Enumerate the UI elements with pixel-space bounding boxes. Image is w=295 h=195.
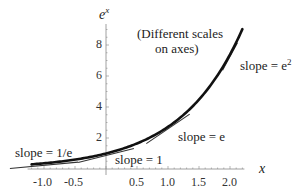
x-axis-label: x (259, 162, 265, 176)
y-tick-label: 6 (96, 69, 102, 81)
x-tick-label: -1.0 (33, 176, 52, 188)
x-tick-label: 2.0 (222, 176, 237, 188)
y-tick-label: 2 (96, 131, 102, 143)
slope-label-e-squared: slope = e2 (240, 58, 292, 72)
y-tick-label: 8 (96, 38, 102, 50)
x-tick-label: 1.5 (191, 176, 206, 188)
slope-label-one-over-e: slope = 1/e (15, 146, 72, 159)
slope-e2-exponent: 2 (287, 57, 292, 67)
x-tick-label: -0.5 (64, 176, 83, 188)
y-axis-label-exponent: x (105, 5, 109, 15)
y-axis-label: ex (99, 6, 109, 22)
annotation-line-1: (Different scales (137, 27, 223, 40)
slope-e2-base: slope = e (240, 58, 287, 73)
annotation-line-2: on axes) (155, 42, 199, 55)
x-tick-label: 0.5 (129, 176, 144, 188)
slope-label-one: slope = 1 (115, 153, 163, 166)
slope-label-e: slope = e (178, 130, 225, 143)
y-tick-label: 4 (96, 100, 102, 112)
x-tick-label: 1.0 (160, 176, 175, 188)
